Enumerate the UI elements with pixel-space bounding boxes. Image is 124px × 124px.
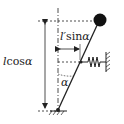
pendulum-spring-diagram: lcosα l′sinα α xyxy=(0,0,124,124)
ground-hatching xyxy=(49,111,64,115)
wall-hatching xyxy=(106,52,110,71)
pendulum-ball xyxy=(94,14,107,27)
diagram-canvas: lcosα l′sinα α xyxy=(0,0,124,124)
vertical-length-label: lcosα xyxy=(3,55,33,68)
spring xyxy=(81,57,106,67)
angle-label: α xyxy=(61,76,69,89)
horizontal-offset-label: l′sinα xyxy=(60,30,90,43)
